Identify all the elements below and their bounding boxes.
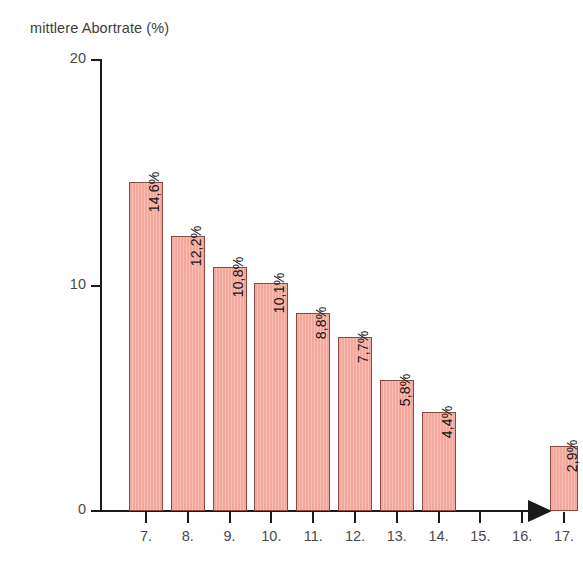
bar-chart: mittlere Abortrate (%) 01020 7.8.9.10.11… bbox=[0, 0, 583, 561]
bar-value-label: 10,1% bbox=[271, 273, 287, 314]
bar: 10,8% bbox=[213, 267, 247, 511]
bar: 7,7% bbox=[338, 337, 372, 511]
x-axis-tick-label: 16. bbox=[499, 528, 545, 544]
x-axis-tick-label: 10. bbox=[248, 528, 294, 544]
bar-value-label: 4,4% bbox=[439, 405, 455, 438]
x-axis-tick-label: 13. bbox=[374, 528, 420, 544]
x-axis-tick bbox=[229, 512, 231, 523]
bar: 14,6% bbox=[129, 182, 163, 511]
bar: 8,8% bbox=[296, 313, 330, 511]
bar-value-label: 5,8% bbox=[397, 374, 413, 407]
x-axis-tick bbox=[396, 512, 398, 523]
x-axis-tick-label: 8. bbox=[165, 528, 211, 544]
y-axis-tick bbox=[91, 285, 102, 287]
bar: 5,8% bbox=[380, 380, 414, 511]
x-axis-tick bbox=[312, 512, 314, 523]
chart-title: mittlere Abortrate (%) bbox=[30, 20, 169, 36]
bar-value-label: 7,7% bbox=[355, 331, 371, 364]
x-axis-tick bbox=[563, 512, 565, 523]
x-axis-arrow-icon bbox=[528, 500, 552, 522]
bar: 4,4% bbox=[422, 412, 456, 511]
x-axis-tick-label: 9. bbox=[207, 528, 253, 544]
x-axis-tick-label: 12. bbox=[332, 528, 378, 544]
y-axis-tick bbox=[91, 510, 102, 512]
bar-value-label: 10,8% bbox=[230, 257, 246, 298]
bar: 2,9% bbox=[550, 446, 578, 511]
x-axis-tick-label: 14. bbox=[416, 528, 462, 544]
y-axis-tick bbox=[91, 59, 102, 61]
bar: 10,1% bbox=[254, 283, 288, 511]
x-axis-tick bbox=[270, 512, 272, 523]
x-axis-tick bbox=[479, 512, 481, 523]
bar-value-label: 12,2% bbox=[188, 226, 204, 267]
x-axis-tick bbox=[145, 512, 147, 523]
x-axis-tick-label: 15. bbox=[457, 528, 503, 544]
bar-value-label: 2,9% bbox=[564, 439, 580, 472]
x-axis-tick bbox=[521, 512, 523, 523]
bar-value-label: 14,6% bbox=[146, 171, 162, 212]
x-axis-tick-label: 11. bbox=[290, 528, 336, 544]
x-axis-tick bbox=[354, 512, 356, 523]
x-axis-tick-label: 7. bbox=[123, 528, 169, 544]
bar-value-label: 8,8% bbox=[313, 306, 329, 339]
y-axis-tick-label: 10 bbox=[38, 276, 86, 292]
bar: 12,2% bbox=[171, 236, 205, 511]
x-axis-tick-label: 17. bbox=[541, 528, 583, 544]
x-axis-tick bbox=[438, 512, 440, 523]
y-axis-tick-label: 20 bbox=[38, 50, 86, 66]
x-axis-tick bbox=[187, 512, 189, 523]
y-axis-tick-label: 0 bbox=[38, 501, 86, 517]
